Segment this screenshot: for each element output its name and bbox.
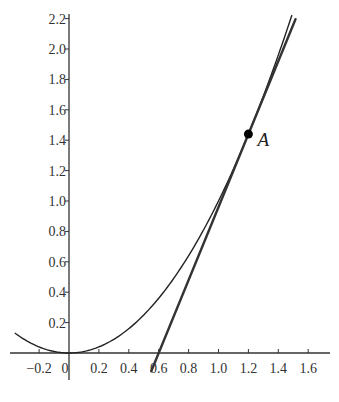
y-tick-label: 1.0: [49, 194, 67, 209]
tangent-line: [151, 19, 295, 371]
y-tick-label: 2.2: [49, 12, 67, 27]
x-tick-label: 0: [62, 361, 69, 376]
parabola-line: [15, 16, 292, 353]
x-tick-label: 1.0: [210, 361, 228, 376]
y-tick-label: 0.8: [49, 224, 67, 239]
x-tick-label: 1.4: [270, 361, 288, 376]
y-tick-label: 0.4: [49, 285, 67, 300]
chart: −0.200.20.40.60.81.01.21.41.6 0.20.40.60…: [0, 0, 339, 402]
x-tick-label: 0.8: [180, 361, 198, 376]
y-ticks: 0.20.40.60.81.01.21.41.61.82.02.2: [49, 12, 70, 331]
y-tick-label: 1.4: [49, 133, 67, 148]
y-tick-label: 0.2: [49, 316, 67, 331]
y-tick-label: 1.6: [49, 103, 67, 118]
point-a-label: A: [255, 129, 269, 150]
x-tick-label: −0.2: [26, 361, 51, 376]
y-tick-label: 0.6: [49, 255, 67, 270]
x-tick-label: 1.2: [240, 361, 258, 376]
x-tick-label: 0.2: [90, 361, 108, 376]
annotations: A: [244, 129, 270, 150]
y-tick-label: 1.8: [49, 72, 67, 87]
y-tick-label: 2.0: [49, 42, 67, 57]
y-tick-label: 1.2: [49, 164, 67, 179]
point-a-marker: [244, 130, 253, 139]
x-tick-label: 1.6: [299, 361, 317, 376]
x-tick-label: 0.4: [120, 361, 138, 376]
